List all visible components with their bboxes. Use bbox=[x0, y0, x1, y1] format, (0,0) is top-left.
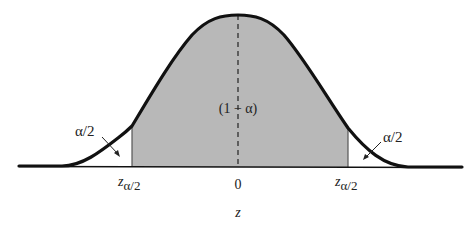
left-critical-subscript: α/2 bbox=[123, 178, 140, 193]
axis-label: z bbox=[234, 205, 241, 220]
shaded-central-region bbox=[132, 15, 348, 167]
right-tail-label: α/2 bbox=[383, 129, 403, 145]
right-critical-subscript: α/2 bbox=[340, 178, 357, 193]
right-critical-value-label: zα/2 bbox=[334, 174, 357, 193]
center-tick-label: 0 bbox=[235, 177, 242, 192]
normal-curve-diagram: α/2 α/2 (1 − α) zα/2 zα/2 0 z bbox=[0, 0, 474, 226]
left-critical-value-label: zα/2 bbox=[117, 174, 140, 193]
left-tail-label: α/2 bbox=[75, 123, 95, 139]
center-area-label: (1 − α) bbox=[219, 101, 258, 117]
